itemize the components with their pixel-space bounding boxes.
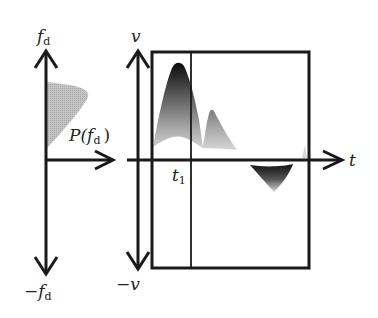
negative-waveform <box>250 164 293 192</box>
power-label: P(fd) <box>68 125 110 147</box>
velocity-time-panel: v −v t t1 <box>116 26 356 294</box>
positive-waveform <box>153 63 237 150</box>
fd-top-label: fd <box>35 26 50 48</box>
v-top-label: v <box>131 26 141 46</box>
spectrum-panel: fd −fd P(fd) <box>24 26 113 303</box>
t-axis-label: t <box>349 150 356 170</box>
fd-bottom-label: −fd <box>24 281 52 303</box>
diagram-canvas: fd −fd P(fd) v −v t t1 <box>0 0 378 318</box>
t1-label: t1 <box>172 165 186 187</box>
v-bottom-label: −v <box>116 274 140 294</box>
faint-waveform-sliver <box>302 145 307 158</box>
